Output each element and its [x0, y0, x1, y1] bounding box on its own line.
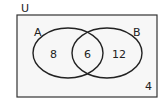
venn-diagram: U A B 8 6 12 4 — [0, 0, 168, 102]
b-only-count: 12 — [112, 48, 126, 61]
set-b-label: B — [133, 26, 141, 39]
set-a-label: A — [34, 26, 42, 39]
outside-count: 4 — [145, 80, 152, 93]
intersection-count: 6 — [84, 48, 91, 61]
a-only-count: 8 — [50, 48, 57, 61]
universe-label: U — [21, 2, 29, 15]
